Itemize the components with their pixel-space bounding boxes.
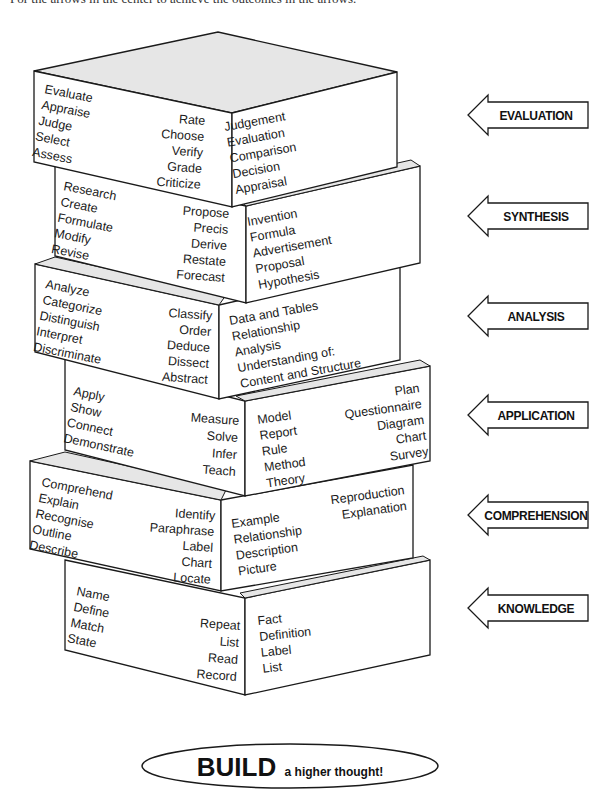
word: Fact <box>257 611 283 628</box>
arrow-application: APPLICATION <box>468 395 588 435</box>
word: Read <box>208 651 239 667</box>
arrow-label: APPLICATION <box>497 409 574 423</box>
word: Verify <box>171 144 204 160</box>
word: Derive <box>191 236 228 252</box>
word: List <box>219 635 240 650</box>
word: Infer <box>211 446 237 462</box>
arrow-evaluation: EVALUATION <box>468 95 588 135</box>
word: Record <box>196 667 237 684</box>
word: Locate <box>173 570 211 587</box>
word: Label <box>182 539 213 555</box>
top-caption: For the arrows in the center to achieve … <box>10 0 356 6</box>
blooms-taxonomy-diagram: For the arrows in the center to achieve … <box>0 0 606 804</box>
arrow-label: ANALYSIS <box>507 310 564 324</box>
arrow-analysis: ANALYSIS <box>468 296 588 336</box>
arrow-label: KNOWLEDGE <box>498 602 575 616</box>
arrow-label: COMPREHENSION <box>484 509 587 523</box>
arrow-label: SYNTHESIS <box>503 210 569 224</box>
arrow-label: EVALUATION <box>499 109 572 123</box>
word: List <box>262 660 283 676</box>
word: Precis <box>193 221 229 237</box>
build-word: BUILD <box>197 752 276 782</box>
word: Solve <box>206 429 238 445</box>
word: Grade <box>167 159 203 175</box>
word: Dissect <box>168 354 210 371</box>
arrow-knowledge: KNOWLEDGE <box>468 588 588 628</box>
arrow-synthesis: SYNTHESIS <box>468 196 588 236</box>
word: Identify <box>175 506 217 523</box>
word: Teach <box>202 463 236 479</box>
word: Order <box>179 323 212 339</box>
build-oval: BUILD a higher thought! <box>142 744 438 788</box>
word: Chart <box>181 555 213 571</box>
word: Repeat <box>200 616 242 633</box>
build-subtext: a higher thought! <box>285 765 384 779</box>
word: Rate <box>178 112 205 128</box>
arrow-comprehension: COMPREHENSION <box>468 495 588 535</box>
